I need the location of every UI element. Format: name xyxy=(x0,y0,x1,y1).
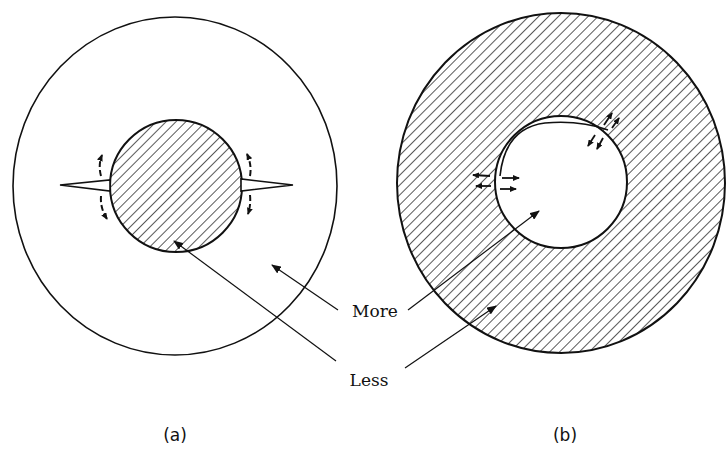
label-more: More xyxy=(352,301,398,321)
panel-b: (b) xyxy=(397,13,725,445)
caption-a: (a) xyxy=(163,425,187,445)
inner-hole-b xyxy=(495,116,627,248)
inclusion-hatched-a xyxy=(110,120,242,252)
panel-a: (a) xyxy=(13,17,337,445)
caption-b: (b) xyxy=(553,425,577,445)
arrow-l-out-1 xyxy=(473,175,490,176)
diagram-figure: (a) (b) More Less xyxy=(0,0,728,457)
leader-less-to-b xyxy=(405,306,496,368)
label-less: Less xyxy=(350,370,389,390)
